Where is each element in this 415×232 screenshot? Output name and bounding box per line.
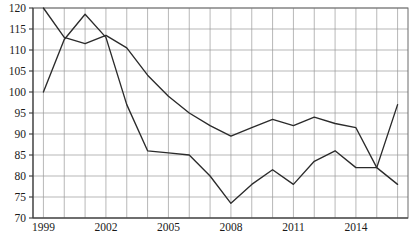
y-tick-label: 95 — [15, 107, 27, 119]
line-chart: 707580859095100105110115120 199920022005… — [0, 0, 415, 232]
y-tick-label: 105 — [9, 65, 27, 77]
x-tick-label: 2002 — [94, 221, 117, 232]
y-tick-labels: 707580859095100105110115120 — [9, 2, 27, 224]
y-tick-label: 90 — [15, 128, 27, 140]
y-tick-label: 80 — [15, 170, 27, 182]
x-tick-labels: 199920022005200820112014 — [32, 221, 368, 232]
y-tick-label: 120 — [9, 2, 27, 14]
y-tick-label: 110 — [9, 44, 26, 56]
y-tick-label: 115 — [9, 23, 26, 35]
x-tick-label: 1999 — [32, 221, 55, 232]
y-tick-label: 70 — [15, 212, 27, 224]
chart-canvas: 707580859095100105110115120 199920022005… — [0, 0, 415, 232]
x-tick-label: 2008 — [219, 221, 242, 232]
x-tick-label: 2005 — [157, 221, 180, 232]
x-tick-label: 2014 — [344, 221, 367, 232]
y-tick-label: 75 — [15, 191, 27, 203]
y-tickmarks — [29, 8, 33, 218]
y-tick-label: 85 — [15, 149, 27, 161]
x-tick-label: 2011 — [282, 221, 305, 232]
y-tick-label: 100 — [9, 86, 27, 98]
